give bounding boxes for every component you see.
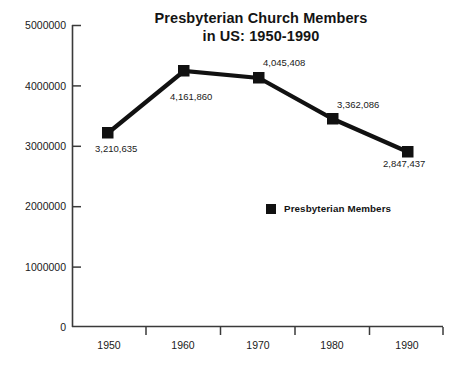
point-value-label-1980: 3,362,086	[337, 99, 379, 110]
point-value-label-1950: 3,210,635	[95, 143, 137, 154]
x-axis-ticks	[146, 327, 443, 335]
x-tick-label-1990: 1990	[377, 340, 437, 351]
x-tick-label-1980: 1980	[302, 340, 362, 351]
data-point-1970[interactable]	[253, 72, 265, 84]
y-tick-label-0: 0	[0, 322, 66, 333]
point-value-label-1970: 4,045,408	[263, 57, 305, 68]
chart-container: Presbyterian Church Members in US: 1950-…	[0, 0, 467, 367]
y-axis-ticks	[72, 26, 81, 268]
data-point-1990[interactable]	[402, 146, 414, 158]
data-point-1950[interactable]	[102, 127, 114, 139]
y-tick-label-4000000: 4000000	[0, 81, 66, 92]
data-point-markers	[102, 65, 414, 158]
point-value-label-1990: 2,847,437	[383, 158, 425, 169]
x-tick-label-1970: 1970	[228, 340, 288, 351]
y-tick-label-3000000: 3000000	[0, 141, 66, 152]
y-tick-label-1000000: 1000000	[0, 262, 66, 273]
data-point-1960[interactable]	[178, 65, 190, 77]
legend-square-marker-icon	[266, 204, 276, 214]
x-tick-label-1960: 1960	[153, 340, 213, 351]
y-tick-label-5000000: 5000000	[0, 20, 66, 31]
chart-legend: Presbyterian Members	[266, 203, 391, 214]
data-point-1980[interactable]	[327, 113, 339, 125]
y-tick-label-2000000: 2000000	[0, 201, 66, 212]
plot-area	[0, 0, 467, 367]
point-value-label-1960: 4,161,860	[170, 91, 212, 102]
legend-label-presbyterian-members: Presbyterian Members	[284, 203, 391, 214]
x-tick-label-1950: 1950	[79, 340, 139, 351]
